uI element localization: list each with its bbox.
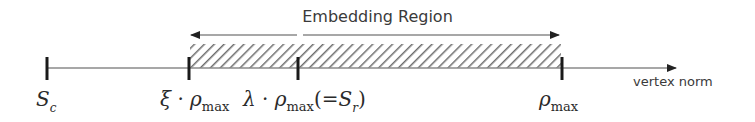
label-xi-rho-max: ξ · ρmax: [160, 89, 229, 113]
label-lambda-rho-max: λ · ρmax(=Sr): [243, 89, 366, 114]
axis-label-vertex-norm: vertex norm: [633, 74, 713, 89]
max-subscript: max: [551, 99, 578, 114]
s-c-subscript: c: [50, 101, 57, 115]
label-s-c: Sc: [36, 89, 56, 114]
rho-symbol: ρ: [539, 87, 551, 111]
rho-symbol: ρ: [190, 87, 202, 111]
label-rho-max: ρmax: [539, 89, 578, 113]
embedding-region-hatch: [190, 44, 561, 68]
embedding-region-title: Embedding Region: [0, 7, 755, 26]
max-subscript: max: [287, 99, 314, 114]
s-r-symbol: S: [339, 87, 353, 111]
rho-symbol: ρ: [275, 87, 287, 111]
dot-operator: ·: [262, 87, 268, 111]
dot-operator: ·: [177, 87, 183, 111]
max-subscript: max: [202, 99, 229, 114]
close-paren: ): [358, 87, 366, 111]
equals-open: (=: [314, 87, 339, 111]
lambda-symbol: λ: [243, 87, 256, 111]
xi-symbol: ξ: [160, 87, 171, 111]
s-c-symbol: S: [36, 87, 50, 111]
